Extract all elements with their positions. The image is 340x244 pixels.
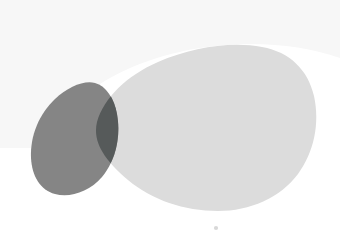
blob-illustration: [0, 0, 340, 244]
speck-dot: [214, 226, 218, 230]
illustration-canvas: [0, 0, 340, 244]
